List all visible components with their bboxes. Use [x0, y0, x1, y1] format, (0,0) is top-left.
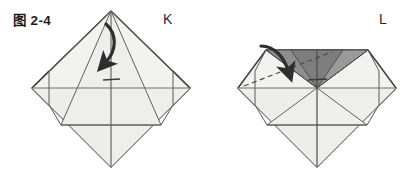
- panel-k-drawing: [32, 11, 190, 167]
- origami-instruction-figure: 图 2-4 K L: [0, 0, 420, 176]
- panel-l-drawing: [238, 46, 396, 167]
- figure-canvas: [0, 0, 420, 176]
- figure-number-label: 图 2-4: [13, 14, 51, 28]
- panel-label-k: K: [163, 12, 172, 26]
- panel-label-l: L: [379, 12, 387, 26]
